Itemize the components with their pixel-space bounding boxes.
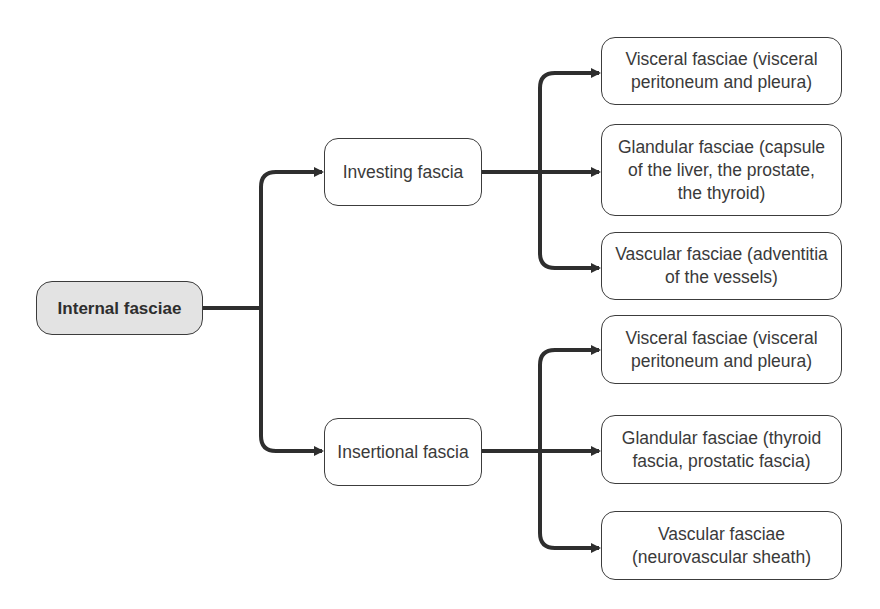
visceral-1-arrow bbox=[540, 73, 599, 172]
node-internal-fasciae: Internal fasciae bbox=[36, 281, 203, 335]
visceral-2-arrow bbox=[540, 350, 599, 451]
node-label: Visceral fasciae (visceral peritoneum an… bbox=[608, 48, 835, 94]
node-vascular-fasciae-2: Vascular fasciae (neurovascular sheath) bbox=[601, 511, 842, 580]
insertional-connector-arrow bbox=[261, 308, 322, 451]
node-label: Internal fasciae bbox=[58, 297, 182, 320]
node-label: Vascular fasciae (neurovascular sheath) bbox=[622, 523, 821, 569]
node-label: Insertional fascia bbox=[337, 441, 468, 464]
node-label: Glandular fasciae (thyroid fascia, prost… bbox=[608, 427, 835, 473]
node-glandular-fasciae-1: Glandular fasciae (capsule of the liver,… bbox=[601, 124, 842, 216]
node-investing-fascia: Investing fascia bbox=[324, 138, 482, 206]
node-insertional-fascia: Insertional fascia bbox=[324, 418, 482, 486]
node-label: Vascular fasciae (adventitia of the vess… bbox=[608, 243, 835, 289]
vascular-1-arrow bbox=[540, 172, 599, 268]
node-visceral-fasciae-1: Visceral fasciae (visceral peritoneum an… bbox=[601, 37, 842, 105]
node-vascular-fasciae-1: Vascular fasciae (adventitia of the vess… bbox=[601, 232, 842, 300]
node-visceral-fasciae-2: Visceral fasciae (visceral peritoneum an… bbox=[601, 315, 842, 384]
vascular-2-arrow bbox=[540, 451, 599, 548]
investing-connector-arrow bbox=[261, 172, 322, 308]
node-glandular-fasciae-2: Glandular fasciae (thyroid fascia, prost… bbox=[601, 415, 842, 484]
node-label: Visceral fasciae (visceral peritoneum an… bbox=[608, 327, 835, 373]
node-label: Investing fascia bbox=[343, 161, 464, 184]
node-label: Glandular fasciae (capsule of the liver,… bbox=[616, 136, 827, 205]
